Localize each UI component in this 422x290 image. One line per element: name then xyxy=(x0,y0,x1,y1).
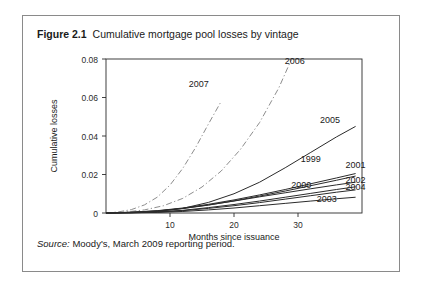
series-label-2004: 2004 xyxy=(346,182,366,192)
y-axis-title: Cumulative losses xyxy=(49,99,59,173)
y-tick-label: 0.08 xyxy=(81,55,98,65)
source-note: Source: Moody's, March 2009 reporting pe… xyxy=(37,238,235,249)
y-axis: 0.08 0.06 0.04 0.02 0 Cumulative losses xyxy=(49,55,106,219)
source-label: Source: xyxy=(37,238,70,249)
figure-caption: Cumulative mortgage pool losses by vinta… xyxy=(93,28,299,40)
series-label-2001: 2001 xyxy=(346,160,366,170)
series-label-2003: 2003 xyxy=(317,194,337,204)
figure-title: Figure 2.1Cumulative mortgage pool losse… xyxy=(37,28,299,40)
series-label-2005: 2005 xyxy=(320,115,340,125)
series-label-2007: 2007 xyxy=(189,79,209,89)
figure-container: Figure 2.1Cumulative mortgage pool losse… xyxy=(22,15,400,272)
y-tick-label: 0.06 xyxy=(81,93,98,103)
chart-plot: 0.08 0.06 0.04 0.02 0 Cumulative losses … xyxy=(23,41,401,241)
chart-svg: 0.08 0.06 0.04 0.02 0 Cumulative losses … xyxy=(23,41,401,241)
series-label-2006: 2006 xyxy=(285,56,305,66)
y-tick-label: 0 xyxy=(93,209,98,219)
x-axis: 10 20 30 Months since issuance xyxy=(165,213,303,241)
y-tick-label: 0.04 xyxy=(81,132,98,142)
series-label-1999: 1999 xyxy=(301,154,321,164)
plot-frame xyxy=(106,59,362,213)
figure-number: Figure 2.1 xyxy=(37,28,87,40)
y-tick-label: 0.02 xyxy=(81,170,98,180)
x-tick-label: 10 xyxy=(165,220,175,230)
x-tick-label: 30 xyxy=(293,220,303,230)
x-tick-label: 20 xyxy=(229,220,239,230)
series-label-2000: 2000 xyxy=(291,180,311,190)
source-text: Moody's, March 2009 reporting period. xyxy=(70,238,235,249)
